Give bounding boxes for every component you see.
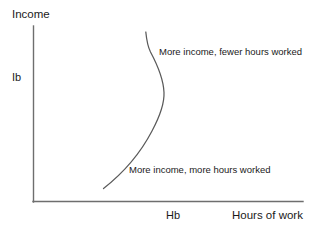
y-axis-title: Income	[12, 9, 50, 21]
chart-canvas	[0, 0, 333, 234]
annotation-lower-segment: More income, more hours worked	[129, 165, 271, 175]
annotation-upper-segment: More income, fewer hours worked	[159, 47, 302, 57]
figure-root: Income Ib Hb Hours of work More income, …	[0, 0, 333, 234]
x-axis-level-label-hb: Hb	[166, 210, 180, 221]
y-axis-level-label-ib: Ib	[12, 72, 21, 83]
x-axis-title: Hours of work	[232, 210, 303, 222]
